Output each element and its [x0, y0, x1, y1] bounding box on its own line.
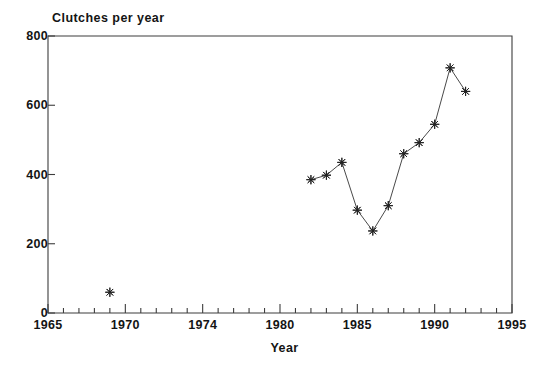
x-tick-label: 1995 [497, 318, 526, 332]
x-tick-label: 1985 [343, 318, 372, 332]
x-axis-title-text: Year [270, 341, 298, 355]
x-tick-label-group: 1965197019741980198519901995 [0, 0, 551, 370]
x-tick-label: 1990 [420, 318, 449, 332]
x-tick-label: 1970 [111, 318, 140, 332]
x-tick-label: 1974 [188, 318, 217, 332]
x-tick-label: 1965 [33, 318, 62, 332]
chart-figure: Clutches per year 0200400600800 19651970… [0, 0, 551, 370]
x-tick-label: 1980 [265, 318, 294, 332]
x-axis-title: Year [0, 341, 551, 355]
